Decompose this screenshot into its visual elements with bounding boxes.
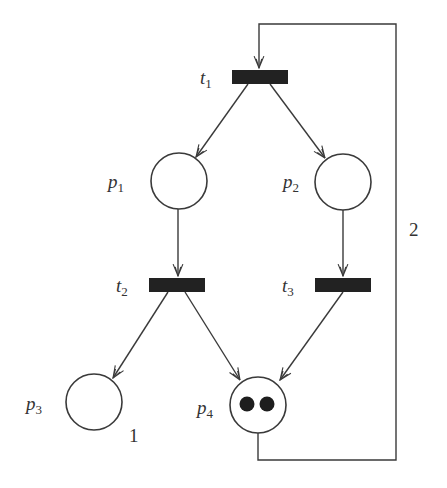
arc-t1-p2 <box>270 84 325 158</box>
place-p2 <box>315 154 371 210</box>
arc-t1-p1 <box>196 84 248 157</box>
transition-t2 <box>149 278 205 292</box>
label-t2: t2 <box>116 275 128 299</box>
arc-t3-p4 <box>280 292 343 380</box>
place-p1 <box>151 153 207 209</box>
transition-t1 <box>232 70 288 84</box>
token <box>240 397 255 412</box>
loop-weight-label: 2 <box>409 219 419 240</box>
p3-annotation-label: 1 <box>129 425 139 446</box>
label-p4: p4 <box>195 397 214 421</box>
place-p4 <box>230 377 286 433</box>
token <box>260 397 275 412</box>
arc-t2-p3 <box>113 292 168 378</box>
label-p1: p1 <box>106 171 124 195</box>
place-p3 <box>66 374 122 430</box>
petri-net-diagram: t1 t2 t3 p1 p2 p3 p4 2 1 <box>0 0 447 488</box>
label-p3: p3 <box>24 393 42 417</box>
transition-t3 <box>315 278 371 292</box>
arc-t2-p4 <box>185 292 240 380</box>
label-p2: p2 <box>281 171 299 195</box>
label-t3: t3 <box>282 275 294 299</box>
label-t1: t1 <box>200 67 212 91</box>
